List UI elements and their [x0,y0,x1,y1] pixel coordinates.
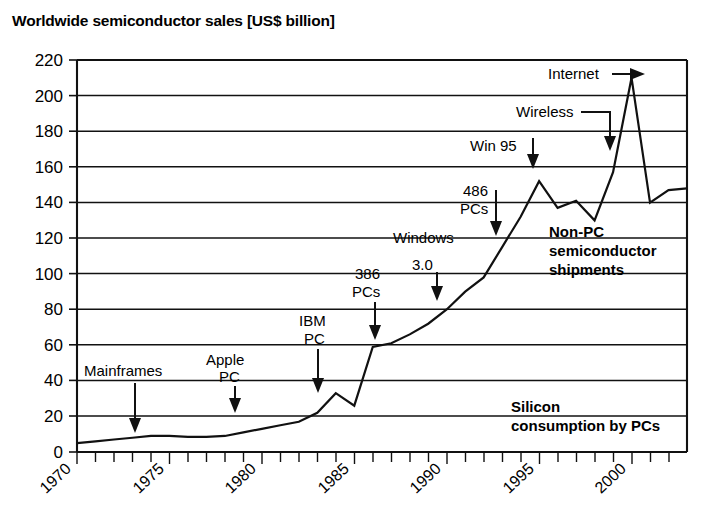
annotation-386-pcs-label-line2: PCs [352,283,380,300]
annotation-windows-30-label-line1: Windows [393,229,454,246]
y-tick-label-180: 180 [35,122,63,141]
y-tick-label-140: 140 [35,193,63,212]
annotation-ibm-pc-label-line2: PC [304,330,325,347]
annotation-apple-pc: Apple PC [206,351,244,413]
annotation-386-pcs-label-line1: 386 [355,265,380,282]
y-tick-label-200: 200 [35,87,63,106]
y-tick-label-120: 120 [35,229,63,248]
annotation-apple-pc-label-line2: PC [219,368,240,385]
x-tick-label-1980: 1980 [221,460,259,497]
annotation-486-pcs: 486 PCs [460,182,502,236]
annotation-win-95: Win 95 [470,137,539,169]
annotation-apple-pc-label-line1: Apple [206,351,244,368]
y-tick-label-100: 100 [35,265,63,284]
annotation-wireless: Wireless [516,103,616,151]
annotation-386-pcs-arrow-head [369,325,381,340]
annotation-486-pcs-label-line1: 486 [463,182,488,199]
annotation-windows-30: Windows 3.0 [393,229,454,301]
annotation-windows-30-label-line2: 3.0 [412,256,433,273]
annotation-internet: Internet [548,65,645,82]
annotation-non-pc-line2: semiconductor [549,242,657,259]
x-tick-label-1990: 1990 [406,460,444,497]
annotation-mainframes: Mainframes [84,362,162,433]
x-tick-label-1995: 1995 [499,460,537,497]
y-tick-label-0: 0 [54,443,63,462]
annotation-internet-arrow-head [630,68,645,80]
annotation-wireless-label: Wireless [516,103,574,120]
semiconductor-sales-line-chart: 220 200 180 160 140 120 100 80 60 40 20 … [0,0,706,517]
x-tick-label-1985: 1985 [314,460,352,497]
x-tick-label-2000: 2000 [591,460,629,497]
annotation-ibm-pc-arrow-head [312,378,324,393]
y-tick-label-160: 160 [35,158,63,177]
annotation-apple-pc-arrow-head [229,398,241,413]
annotation-internet-label: Internet [548,65,600,82]
annotation-mainframes-arrow-head [129,418,141,433]
annotation-386-pcs: 386 PCs [352,265,381,340]
y-axis-ticks [69,60,77,452]
chart-figure: Worldwide semiconductor sales [US$ billi… [0,0,706,517]
annotation-wireless-arrow-head [604,136,616,151]
x-axis-labels: 1970 1975 1980 1985 1990 1995 2000 [36,460,629,497]
x-tick-label-1970: 1970 [36,460,74,497]
annotation-silicon-line2: consumption by PCs [511,417,660,434]
y-tick-label-60: 60 [44,336,63,355]
y-tick-label-20: 20 [44,407,63,426]
annotation-non-pc-line1: Non-PC [549,223,604,240]
y-tick-label-40: 40 [44,371,63,390]
annotation-486-pcs-arrow-head [490,221,502,236]
y-tick-label-80: 80 [44,300,63,319]
annotation-mainframes-label: Mainframes [84,362,162,379]
y-axis-labels: 220 200 180 160 140 120 100 80 60 40 20 … [35,51,63,462]
annotation-win-95-label: Win 95 [470,137,517,154]
x-axis-ticks [77,452,669,464]
annotation-486-pcs-label-line2: PCs [460,200,488,217]
x-tick-label-1975: 1975 [129,460,167,497]
annotation-ibm-pc-label-line1: IBM [299,312,326,329]
annotation-non-pc-line3: shipments [549,261,624,278]
annotation-non-pc-shipments: Non-PC semiconductor shipments [549,223,657,278]
annotation-windows-30-arrow-head [431,286,443,301]
y-tick-label-220: 220 [35,51,63,70]
annotation-silicon-line1: Silicon [511,398,560,415]
